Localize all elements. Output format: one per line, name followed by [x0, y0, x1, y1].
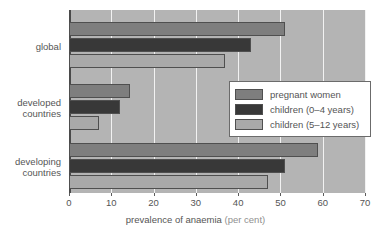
bar-group [69, 143, 365, 191]
bar [69, 84, 130, 98]
x-tick-label: 40 [223, 197, 253, 208]
x-tick-label: 50 [265, 197, 295, 208]
bar [69, 38, 251, 52]
x-axis: 010203040506070 [69, 193, 365, 213]
legend-item: children (0–4 years) [235, 102, 365, 116]
x-tick-label: 30 [181, 197, 211, 208]
legend-item: pregnant women [235, 87, 365, 101]
bar [69, 100, 120, 114]
x-tick-label: 20 [139, 197, 169, 208]
bar [69, 159, 285, 173]
x-tick-label: 60 [308, 197, 338, 208]
category-label-line: countries [0, 108, 61, 119]
x-tick-mark [238, 193, 239, 196]
legend: pregnant womenchildren (0–4 years)childr… [229, 81, 371, 137]
legend-item: children (5–12 years) [235, 117, 365, 131]
category-label-developed-countries: developedcountries [0, 97, 61, 119]
bar [69, 54, 225, 68]
x-tick-mark [323, 193, 324, 196]
x-axis-title: prevalence of anaemia (per cent) [0, 214, 391, 225]
x-tick-mark [280, 193, 281, 196]
x-tick-label: 10 [96, 197, 126, 208]
anaemia-prevalence-bar-chart: globaldevelopedcountriesdevelopingcountr… [0, 0, 391, 234]
bar [69, 143, 318, 157]
bar [69, 22, 285, 36]
category-label-line: developed [0, 97, 61, 108]
x-axis-title-unit: (per cent) [225, 214, 266, 225]
legend-swatch [235, 119, 263, 130]
x-tick-label: 0 [54, 197, 84, 208]
x-tick-mark [365, 193, 366, 196]
legend-label: children (0–4 years) [270, 104, 354, 115]
category-label-line: countries [0, 167, 61, 178]
x-tick-mark [111, 193, 112, 196]
legend-swatch [235, 104, 263, 115]
x-axis-title-main: prevalence of anaemia [126, 214, 222, 225]
category-label-global: global [0, 41, 61, 52]
x-tick-mark [154, 193, 155, 196]
bar [69, 175, 268, 189]
category-label-line: global [0, 41, 61, 52]
category-label-developing-countries: developingcountries [0, 156, 61, 178]
legend-label: pregnant women [270, 89, 341, 100]
x-tick-mark [196, 193, 197, 196]
x-tick-mark [69, 193, 70, 196]
bar-group [69, 22, 365, 70]
x-tick-label: 70 [350, 197, 380, 208]
legend-swatch [235, 89, 263, 100]
legend-label: children (5–12 years) [270, 119, 359, 130]
category-label-line: developing [0, 156, 61, 167]
bar [69, 116, 99, 130]
